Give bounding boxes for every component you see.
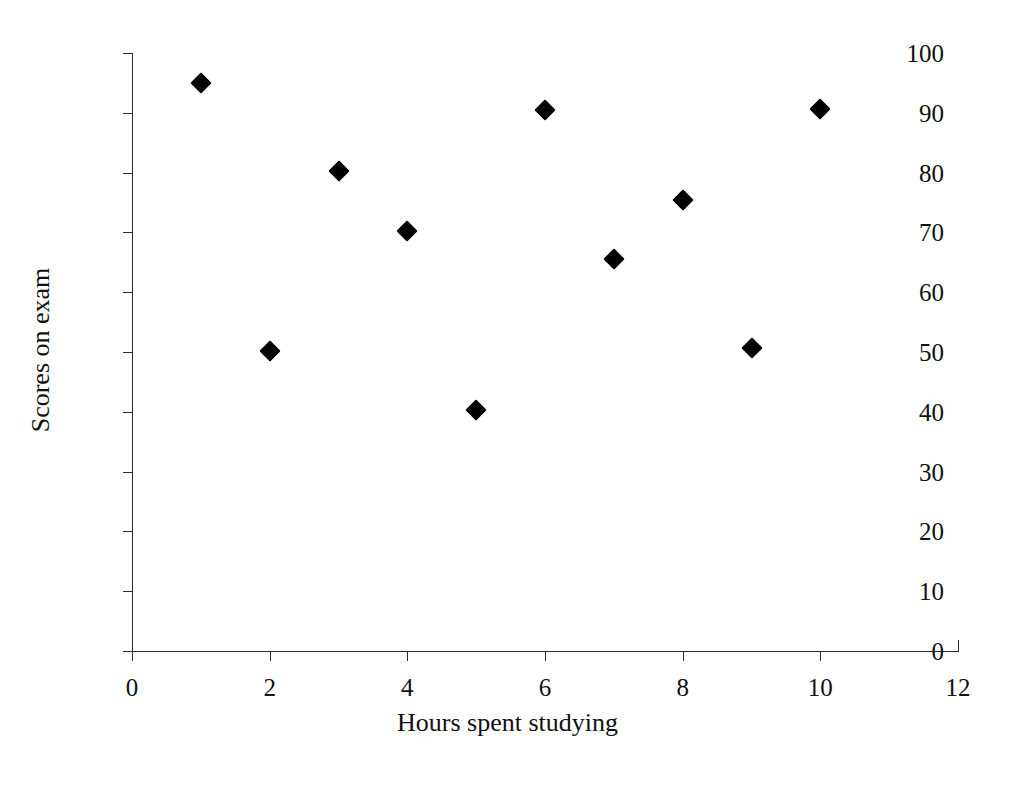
data-point-marker: [672, 189, 693, 210]
x-tick-mark: [407, 651, 408, 661]
y-tick-label: 30: [919, 459, 944, 484]
y-axis-title: Scores on exam: [26, 268, 56, 433]
y-tick-mark: [123, 173, 132, 174]
data-point-marker: [534, 99, 555, 120]
y-tick-mark: [123, 472, 132, 473]
y-tick-mark: [123, 53, 132, 54]
x-tick-label: 12: [946, 675, 971, 700]
x-tick-mark: [270, 651, 271, 661]
data-point-marker: [810, 98, 831, 119]
y-tick-mark: [123, 412, 132, 413]
y-tick-mark: [123, 232, 132, 233]
x-tick-label: 2: [263, 675, 276, 700]
y-tick-mark: [123, 352, 132, 353]
y-tick-mark: [123, 113, 132, 114]
y-tick-label: 10: [919, 579, 944, 604]
data-point-marker: [328, 160, 349, 181]
plot-area: 0102030405060708090100 024681012: [132, 53, 958, 651]
data-point-marker: [397, 220, 418, 241]
y-tick-label: 40: [919, 399, 944, 424]
x-tick-mark: [958, 640, 959, 651]
data-point-marker: [190, 72, 211, 93]
y-tick-label: 70: [919, 220, 944, 245]
y-tick-mark: [123, 591, 132, 592]
x-tick-mark: [820, 651, 821, 661]
data-point-marker: [466, 399, 487, 420]
x-tick-label: 6: [539, 675, 552, 700]
y-tick-mark: [123, 651, 132, 652]
data-point-marker: [741, 338, 762, 359]
x-axis-title: Hours spent studying: [0, 708, 1015, 738]
y-tick-label: 80: [919, 160, 944, 185]
y-tick-label: 0: [932, 639, 945, 664]
x-tick-label: 10: [808, 675, 833, 700]
y-tick-mark: [123, 292, 132, 293]
x-tick-label: 0: [126, 675, 139, 700]
data-point-marker: [603, 249, 624, 270]
scatter-chart: 0102030405060708090100 024681012 Scores …: [0, 0, 1015, 789]
y-tick-mark: [123, 531, 132, 532]
x-tick-mark: [545, 651, 546, 661]
y-tick-label: 100: [907, 41, 945, 66]
y-tick-label: 20: [919, 519, 944, 544]
x-tick-mark: [683, 651, 684, 661]
y-tick-label: 90: [919, 100, 944, 125]
x-tick-mark: [132, 641, 133, 661]
x-tick-label: 8: [676, 675, 689, 700]
data-point-marker: [259, 341, 280, 362]
x-tick-label: 4: [401, 675, 414, 700]
y-tick-label: 60: [919, 280, 944, 305]
y-tick-label: 50: [919, 340, 944, 365]
